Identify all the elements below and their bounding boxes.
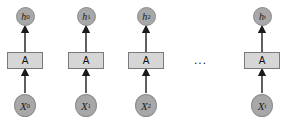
input-node-x1: X1 (75, 94, 97, 117)
output-node-h0: h0 (16, 7, 35, 26)
input-node-x0: X0 (14, 94, 36, 117)
ellipsis-continuation: ... (194, 53, 207, 67)
output-node-ht: ht (253, 7, 272, 26)
rnn-cell-a-2: A (128, 52, 164, 69)
input-node-x2: X2 (135, 94, 157, 117)
rnn-cell-a-1: A (68, 52, 104, 69)
output-node-h2: h2 (137, 7, 156, 26)
rnn-unrolled-diagram: h0 A X0 h1 A X1 h2 A X2 ... ht A Xt (0, 0, 288, 121)
rnn-cell-a-0: A (7, 52, 43, 69)
output-node-h1: h1 (77, 7, 96, 26)
input-node-xt: Xt (251, 94, 273, 117)
rnn-cell-a-t: A (244, 52, 280, 69)
